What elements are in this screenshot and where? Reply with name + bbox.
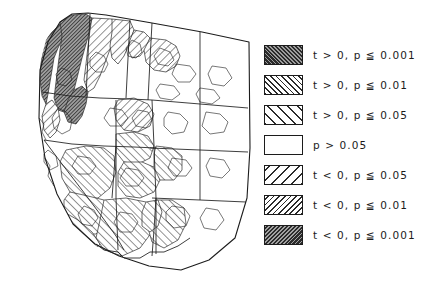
swatch-t-neg-p-01 [264,195,303,215]
map-panel [0,0,258,289]
legend-label-1: t > 0, p ≦ 0.01 [313,75,408,95]
significance-legend: t > 0, p ≦ 0.001 t > 0, p ≦ 0.01 t > 0, … [258,44,429,270]
legend-row-5: t < 0, p ≦ 0.01 [258,194,408,216]
legend-row-6: t < 0, p ≦ 0.001 [258,224,416,246]
swatch-t-pos-p-01 [264,75,303,95]
legend-row-3: p > 0.05 [258,134,367,156]
figure-root: t > 0, p ≦ 0.001 t > 0, p ≦ 0.01 t > 0, … [0,0,429,289]
swatch-t-neg-p-05 [264,165,303,185]
legend-row-4: t < 0, p ≦ 0.05 [258,164,408,186]
swatch-not-significant [264,135,303,155]
legend-label-4: t < 0, p ≦ 0.05 [313,165,408,185]
swatch-t-pos-p-001 [264,45,303,65]
western-us-hatched-map [0,0,258,289]
swatch-t-pos-p-05 [264,105,303,125]
legend-row-2: t > 0, p ≦ 0.05 [258,104,408,126]
legend-label-5: t < 0, p ≦ 0.01 [313,195,408,215]
legend-label-3: p > 0.05 [313,135,367,155]
legend-label-2: t > 0, p ≦ 0.05 [313,105,408,125]
legend-row-0: t > 0, p ≦ 0.001 [258,44,416,66]
legend-label-0: t > 0, p ≦ 0.001 [313,45,416,65]
swatch-t-neg-p-001 [264,225,303,245]
legend-row-1: t > 0, p ≦ 0.01 [258,74,408,96]
legend-label-6: t < 0, p ≦ 0.001 [313,225,416,245]
